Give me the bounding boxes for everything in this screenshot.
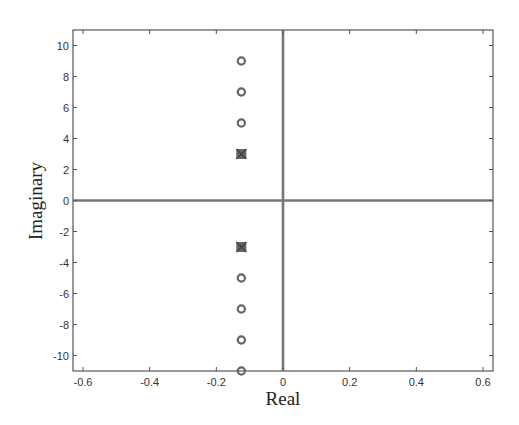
- pole-marker: [236, 242, 246, 252]
- y-axis-label: Imaginary: [25, 161, 46, 240]
- x-tick-label: -0.2: [207, 376, 226, 388]
- pole-zero-plot: -0.6-0.4-0.200.20.40.6 1086420-2-4-6-8-1…: [0, 0, 519, 425]
- y-tick-label: -2: [59, 226, 69, 238]
- x-tick-label: 0.6: [475, 376, 490, 388]
- y-tick-label: -6: [59, 288, 69, 300]
- y-tick-label: 10: [57, 40, 69, 52]
- y-tick-label: 2: [63, 164, 69, 176]
- y-tick-label: -10: [53, 350, 69, 362]
- y-tick-label: 0: [63, 195, 69, 207]
- x-tick-label: 0: [280, 376, 286, 388]
- y-tick-label: 4: [63, 133, 69, 145]
- x-tick-label: -0.4: [140, 376, 159, 388]
- pole-marker: [236, 149, 246, 159]
- y-tick-label: 8: [63, 71, 69, 83]
- x-tick-label: -0.6: [74, 376, 93, 388]
- x-tick-label: 0.4: [409, 376, 424, 388]
- y-tick-label: -8: [59, 319, 69, 331]
- y-tick-label: 6: [63, 102, 69, 114]
- y-tick-label: -4: [59, 257, 69, 269]
- x-axis-label: Real: [266, 388, 301, 409]
- x-tick-label: 0.2: [342, 376, 357, 388]
